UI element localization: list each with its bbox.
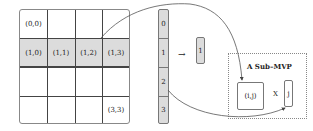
- curve-vector-to-submvp: [168, 90, 285, 117]
- curve-matrix-to-submvp: [101, 4, 242, 80]
- connector-curves: [0, 0, 313, 131]
